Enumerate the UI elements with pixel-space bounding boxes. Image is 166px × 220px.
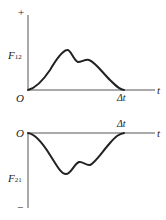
top-origin-label: O [16,93,24,104]
bottom-y-axis-label: F21 [8,173,22,184]
bottom-x-axis-label: t [157,128,160,139]
top-x-axis-label: t [157,85,160,96]
top-force-curve [28,50,124,90]
bottom-y-label-main: F [8,172,15,184]
force-time-diagrams [0,0,166,220]
bottom-duration-label: Δt [117,119,126,129]
bottom-y-label-sub: 21 [15,176,22,184]
bottom-sign-label: − [17,202,23,213]
bottom-force-curve [28,133,124,174]
bottom-origin-label: O [16,128,24,139]
top-y-label-sub: 12 [15,53,22,61]
top-sign-label: + [18,7,24,18]
top-duration-label: Δt [117,93,126,103]
top-y-axis-label: F12 [8,50,22,61]
top-y-label-main: F [8,49,15,61]
